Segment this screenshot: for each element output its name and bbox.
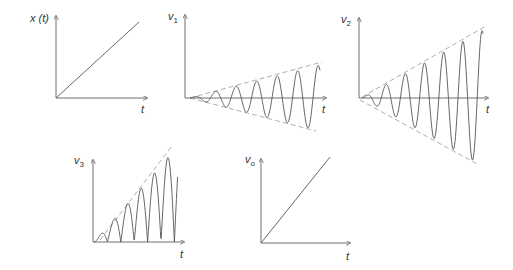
panel-x-t: x (t) t: [29, 12, 147, 115]
waveform-canvas: x (t) t v1 t v2 t v3 t: [0, 0, 513, 270]
growing-sine-curve: [190, 66, 320, 128]
panel-v3: v3 t: [74, 146, 184, 260]
rectified-sine-curve: [94, 158, 178, 242]
y-axis-label: v2: [341, 13, 352, 28]
y-axis-label: x (t): [29, 12, 49, 24]
panel-v2: v2 t: [341, 13, 490, 165]
x-axis-label: t: [141, 103, 145, 115]
x-axis-label: t: [322, 103, 326, 115]
ramp-curve: [261, 157, 330, 243]
x-axis-label: t: [486, 103, 490, 115]
envelope-lower: [360, 100, 479, 165]
x-axis-label: t: [346, 250, 350, 262]
growing-sine-curve: [362, 31, 483, 161]
ramp-curve: [56, 22, 139, 98]
panel-vo: vo t: [245, 153, 350, 262]
y-axis-label: v1: [168, 10, 179, 25]
waveform-diagram: x (t) t v1 t v2 t v3 t: [0, 0, 513, 270]
y-axis-label: v3: [74, 154, 85, 169]
panel-v1: v1 t: [168, 10, 326, 131]
envelope-lower: [190, 98, 316, 131]
x-axis-label: t: [180, 248, 184, 260]
y-axis-label: vo: [245, 153, 256, 168]
